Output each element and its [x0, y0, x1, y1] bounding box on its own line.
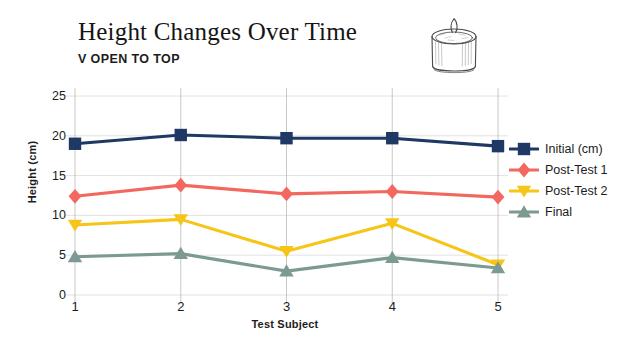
data-point-marker — [518, 162, 531, 177]
legend-item-4[interactable]: Final — [509, 201, 608, 222]
x-tick-1: 1 — [60, 299, 90, 314]
y-tick-20: 20 — [38, 129, 66, 143]
legend-label: Initial (cm) — [545, 142, 603, 156]
x-tick-3: 3 — [272, 299, 302, 314]
data-point-marker — [280, 187, 293, 202]
y-tick-25: 25 — [38, 89, 66, 103]
legend-marker-icon — [509, 203, 539, 221]
data-point-marker — [518, 142, 530, 154]
y-tick-15: 15 — [38, 169, 66, 183]
legend-label: Final — [545, 205, 572, 219]
legend-label: Post-Test 2 — [545, 184, 608, 198]
data-point-marker — [492, 190, 505, 205]
data-point-marker — [69, 189, 82, 204]
y-axis-title: Height (cm) — [26, 122, 38, 222]
x-tick-4: 4 — [377, 299, 407, 314]
legend-marker-icon — [509, 140, 539, 158]
legend-marker-icon — [509, 161, 539, 179]
y-tick-10: 10 — [38, 208, 66, 222]
legend-item-2[interactable]: Post-Test 1 — [509, 159, 608, 180]
legend-item-3[interactable]: Post-Test 2 — [509, 180, 608, 201]
legend-marker-icon — [509, 182, 539, 200]
data-point-marker — [386, 184, 399, 199]
data-point-marker — [279, 246, 293, 258]
x-tick-2: 2 — [166, 299, 196, 314]
data-point-marker — [174, 178, 187, 193]
y-tick-5: 5 — [38, 248, 66, 262]
data-point-marker — [386, 132, 398, 144]
legend-item-1[interactable]: Initial (cm) — [509, 138, 608, 159]
legend-label: Post-Test 1 — [545, 163, 608, 177]
chart-legend: Initial (cm)Post-Test 1Post-Test 2Final — [509, 138, 608, 222]
x-axis-title: Test Subject — [0, 318, 570, 330]
data-point-marker — [280, 132, 292, 144]
data-point-marker — [175, 129, 187, 141]
x-tick-5: 5 — [483, 299, 513, 314]
chart-container: Height Changes Over Time V OPEN TO TOP — [0, 0, 633, 352]
data-point-marker — [492, 140, 504, 152]
data-point-marker — [69, 138, 81, 150]
